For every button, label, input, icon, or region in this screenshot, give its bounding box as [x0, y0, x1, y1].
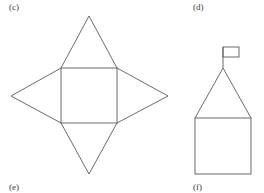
net-right-triangle: [117, 68, 168, 123]
net-top-triangle: [61, 16, 117, 68]
square-pyramid-net: [11, 16, 168, 174]
house-with-flag: [195, 47, 251, 174]
figures-canvas: [0, 0, 264, 193]
net-left-triangle: [11, 68, 61, 123]
net-bottom-triangle: [61, 123, 117, 174]
house-base-square: [195, 118, 251, 174]
flag-icon: [223, 47, 239, 57]
house-roof-triangle: [195, 68, 251, 118]
net-center-square: [61, 68, 117, 123]
